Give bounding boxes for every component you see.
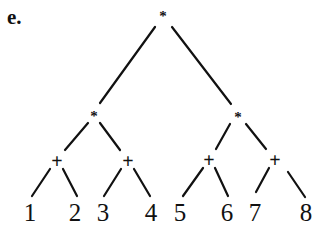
leaf-node: 8 (300, 200, 313, 225)
plus-operator-node: + (122, 151, 133, 171)
leaf-node: 7 (249, 200, 262, 225)
leaf-node: 2 (69, 200, 82, 225)
leaf-node: 1 (24, 200, 37, 225)
tree-edge (256, 168, 269, 192)
tree-edge (216, 124, 230, 149)
plus-operator-node: + (203, 150, 214, 170)
tree-edge (183, 168, 203, 196)
plus-operator-node: + (269, 150, 280, 170)
multiply-operator-node: * (90, 109, 98, 124)
tree-edge (104, 169, 121, 196)
tree-edge (246, 124, 266, 149)
tree-edge (63, 169, 77, 196)
leaf-node: 4 (145, 200, 158, 225)
tree-edge (134, 169, 150, 196)
leaf-node: 6 (221, 200, 234, 225)
tree-edge (65, 123, 88, 150)
leaf-node: 3 (97, 200, 110, 225)
tree-edge (100, 27, 155, 103)
tree-edge (100, 123, 120, 150)
expression-tree-diagram: e. ***++++12345678 (0, 0, 313, 227)
tree-edge (288, 172, 305, 197)
multiply-operator-node: * (159, 9, 167, 24)
leaf-node: 5 (174, 200, 187, 225)
tree-edge (215, 168, 228, 196)
tree-edges (0, 0, 313, 227)
plus-operator-node: + (51, 151, 62, 171)
multiply-operator-node: * (234, 110, 242, 125)
tree-edge (32, 169, 50, 196)
tree-edge (172, 27, 231, 104)
